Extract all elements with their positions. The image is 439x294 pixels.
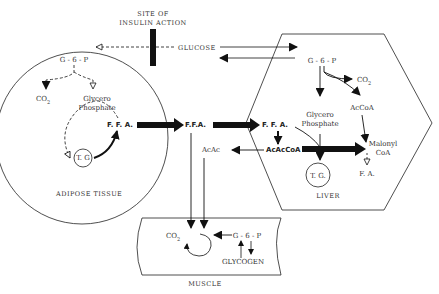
liver-g6p-to-accoa bbox=[324, 72, 360, 95]
muscle-g6p-label: G - 6 - P bbox=[233, 232, 262, 240]
liver-ffa-to-tg-line bbox=[295, 127, 320, 147]
adipose-g6p-label: G - 6 - P bbox=[60, 56, 89, 64]
malonyl-label-2: CoA bbox=[376, 149, 392, 157]
glucose-label: GLUCOSE bbox=[178, 44, 216, 52]
liver-accoa-label: AcCoA bbox=[349, 104, 375, 112]
liver-co2-subscript: 2 bbox=[368, 80, 371, 86]
blood-ffa-label: F.F.A. bbox=[185, 121, 206, 129]
muscle-label: MUSCLE bbox=[188, 280, 222, 288]
liver-label: LIVER bbox=[316, 192, 340, 200]
liver-fa-label: F. A. bbox=[359, 170, 375, 178]
adipose-co2-label: CO bbox=[36, 95, 47, 103]
acaccoa-to-malonyl-arrowhead bbox=[355, 142, 366, 156]
acaccoa-label: AcAcCoA bbox=[266, 146, 301, 154]
liver-ffa-label: F. F. A. bbox=[262, 121, 288, 129]
liver-tg-label: T. G. bbox=[310, 172, 326, 180]
muscle-co2-label: CO bbox=[166, 232, 177, 240]
liver-g6p-label: G - 6 - P bbox=[308, 57, 337, 65]
ffa-to-liver-arrow-body bbox=[213, 122, 251, 128]
acac-label: AcAc bbox=[201, 146, 220, 154]
muscle-compartment bbox=[137, 218, 281, 275]
muscle-krebs-cycle bbox=[187, 234, 211, 256]
adipose-ffa-label: F. F. A. bbox=[107, 121, 133, 129]
adipose-tissue-label: ADIPOSE TISSUE bbox=[55, 190, 122, 198]
malonyl-label-1: Malonyl bbox=[369, 140, 398, 148]
glycogen-label: GLYCOGEN bbox=[222, 258, 264, 266]
adipose-co2-subscript: 2 bbox=[47, 99, 50, 105]
muscle-co2-subscript: 2 bbox=[177, 236, 180, 242]
insulin-label-line2: INSULIN ACTION bbox=[119, 19, 186, 27]
adipose-tissue-compartment bbox=[0, 52, 168, 224]
liver-accoa-to-malonyl bbox=[362, 115, 366, 142]
ffa-export-arrowhead bbox=[174, 118, 184, 132]
liver-co2-label: CO bbox=[357, 76, 368, 84]
insulin-action-bar bbox=[150, 29, 156, 66]
ffa-to-liver-arrowhead bbox=[250, 118, 260, 132]
insulin-label-line1: SITE OF bbox=[137, 10, 169, 18]
liver-g6p-to-co2 bbox=[324, 66, 352, 79]
g6p-split-to-co2 bbox=[46, 65, 74, 89]
acaccoa-to-malonyl-arrow-body bbox=[302, 146, 356, 152]
adipose-glycero-label-2: Phosphate bbox=[78, 104, 115, 112]
tg-to-ffa-arrow bbox=[94, 131, 117, 158]
metabolic-pathway-diagram: SITE OF INSULIN ACTION GLUCOSE G - 6 - P… bbox=[0, 0, 439, 294]
ffa-export-arrow-body bbox=[137, 122, 175, 128]
adipose-tg-label: T. G bbox=[76, 154, 90, 162]
liver-glycero-label-1: Glycero bbox=[306, 111, 333, 119]
g6p-split-to-glycero bbox=[74, 72, 93, 89]
liver-glycero-label-2: Phosphate bbox=[301, 120, 338, 128]
adipose-glycero-label-1: Glycero bbox=[83, 95, 110, 103]
